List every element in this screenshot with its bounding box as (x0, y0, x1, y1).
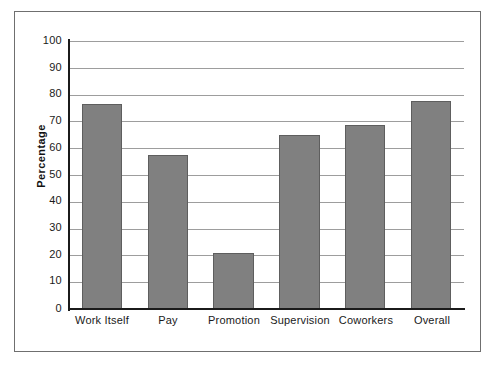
plot-area (69, 41, 464, 309)
gridline-100 (69, 41, 464, 42)
gridline-60 (69, 148, 464, 149)
y-tick-90: 90 (16, 62, 62, 73)
gridline-10 (69, 282, 464, 283)
bar-pay[interactable] (148, 155, 188, 309)
figure-canvas: 100 90 80 70 60 50 40 30 20 10 0 Percent… (0, 0, 494, 366)
gridline-20 (69, 255, 464, 256)
y-tick-30: 30 (16, 222, 62, 233)
y-axis-line (68, 39, 70, 311)
bar-overall[interactable] (411, 101, 451, 309)
x-tick-label-work-itself: Work Itself (69, 314, 135, 327)
gridline-80 (69, 95, 464, 96)
bar-supervision[interactable] (279, 135, 319, 309)
gridline-30 (69, 229, 464, 230)
gridline-40 (69, 202, 464, 203)
y-tick-80: 80 (16, 88, 62, 99)
y-tick-100: 100 (16, 35, 62, 46)
y-tick-20: 20 (16, 249, 62, 260)
y-tick-10: 10 (16, 275, 62, 286)
bar-work-itself[interactable] (82, 104, 122, 309)
x-tick-label-supervision: Supervision (266, 314, 334, 327)
x-tick-label-overall: Overall (399, 314, 465, 327)
x-tick-label-pay: Pay (135, 314, 201, 327)
bar-promotion[interactable] (213, 253, 253, 309)
gridline-70 (69, 121, 464, 122)
x-axis-line (68, 308, 465, 310)
y-axis-title: Percentage (35, 111, 47, 201)
gridline-90 (69, 68, 464, 69)
bar-coworkers[interactable] (345, 125, 385, 309)
y-tick-0: 0 (16, 303, 62, 314)
x-tick-label-coworkers: Coworkers (333, 314, 399, 327)
x-tick-label-promotion: Promotion (201, 314, 267, 327)
gridline-50 (69, 175, 464, 176)
